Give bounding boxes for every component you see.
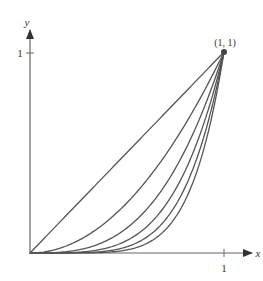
- y-axis-label: y: [24, 16, 30, 28]
- point-label: (1, 1): [214, 37, 236, 49]
- curves-group: [30, 52, 224, 253]
- point-marker: [221, 49, 227, 55]
- curve-power-1: [30, 52, 224, 253]
- x-axis-label: x: [255, 247, 261, 259]
- x-tick-label: 1: [221, 262, 227, 274]
- power-curves-chart: y x 1 1 (1, 1): [0, 0, 263, 281]
- y-tick-label: 1: [17, 47, 23, 59]
